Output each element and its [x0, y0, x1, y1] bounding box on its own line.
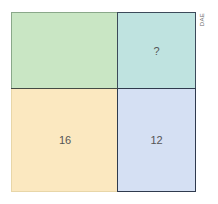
cell-bottom-right-label: 12 — [150, 134, 162, 146]
divider-line — [11, 88, 118, 89]
cell-top-right: ? — [117, 12, 196, 89]
cell-bottom-left-label: 16 — [59, 134, 71, 146]
cell-top-left — [11, 12, 118, 89]
cell-top-right-label: ? — [153, 45, 159, 57]
cell-bottom-right: 12 — [117, 88, 196, 192]
cell-bottom-left: 16 — [11, 88, 118, 192]
area-model-diagram: 16 ? 12 — [11, 12, 196, 192]
credit-text: DAE — [199, 13, 205, 26]
